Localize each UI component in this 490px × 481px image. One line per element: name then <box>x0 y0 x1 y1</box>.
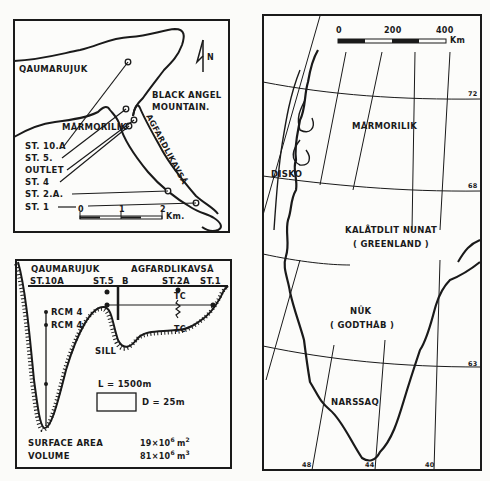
longitude-label: 44 <box>365 461 375 469</box>
label-nuk: NÛK <box>350 305 372 316</box>
greenland-overview-drawing: 0 200 400 Km MÅRMORILIK DISKO KALÂTDLIT … <box>0 0 490 481</box>
label-marmorilik: MÅRMORILIK <box>352 121 417 131</box>
scale-tick: 400 <box>436 26 454 35</box>
latitude-label: 63 <box>468 360 478 368</box>
label-godthab: ( GODTHÅB ) <box>330 320 394 330</box>
latitude-label: 72 <box>468 90 478 98</box>
label-disko: DISKO <box>271 169 302 179</box>
label-narssaq: NARSSAQ <box>331 397 379 407</box>
greenland-scale-bar: 0 200 400 Km <box>336 26 465 45</box>
longitude-label: 48 <box>302 461 312 469</box>
coastal-islands <box>274 70 313 230</box>
scale-tick: 200 <box>384 26 402 35</box>
greenland-coastline <box>285 50 480 460</box>
longitude-label: 40 <box>425 461 435 469</box>
label-greenland: ( GREENLAND ) <box>353 239 429 249</box>
latitude-label: 68 <box>468 182 478 190</box>
scale-unit: Km <box>450 36 465 45</box>
east-coast <box>458 240 480 262</box>
label-kalaallit-nunat: KALÂTDLIT NUNAT <box>345 224 437 235</box>
scale-tick: 0 <box>336 26 342 35</box>
